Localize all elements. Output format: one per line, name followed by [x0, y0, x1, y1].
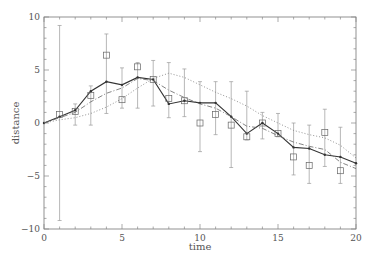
series-point — [277, 132, 279, 134]
x-tick-label: 15 — [272, 233, 284, 243]
series-point — [261, 122, 263, 124]
series-point — [121, 84, 123, 86]
line-chart: 05101520−10−50510 time distance — [0, 0, 370, 261]
y-tick-label: 10 — [29, 12, 41, 22]
series-point — [74, 109, 76, 111]
y-axis-label: distance — [10, 102, 21, 145]
y-tick-label: −10 — [21, 224, 40, 234]
y-tick-label: 0 — [34, 118, 40, 128]
series-point — [292, 146, 294, 148]
series-point — [308, 147, 310, 149]
series-point — [183, 100, 185, 102]
series-point — [214, 102, 216, 104]
series-point — [324, 154, 326, 156]
series-point — [355, 162, 357, 164]
x-tick-label: 5 — [119, 233, 125, 243]
x-axis-label: time — [189, 241, 212, 252]
series-point — [168, 103, 170, 105]
y-tick-label: 5 — [34, 65, 40, 75]
x-tick-label: 0 — [41, 233, 47, 243]
series-point — [339, 156, 341, 158]
series-point — [90, 90, 92, 92]
error-bars — [58, 25, 343, 220]
axis-tick-labels: 05101520−10−50510 — [21, 12, 362, 243]
x-tick-label: 20 — [350, 233, 362, 243]
series-point — [105, 80, 107, 82]
y-tick-label: −5 — [27, 171, 41, 181]
